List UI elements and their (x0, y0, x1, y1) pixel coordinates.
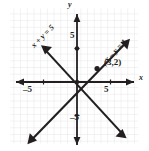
coordinate-plane-figure: y x –5 5 5 –5 (3,2) x + y = 5 x – y = 1 (0, 0, 149, 151)
y-tick-label-positive-5: 5 (70, 31, 75, 40)
x-axis-label: x (139, 74, 143, 82)
y-intercept-dot (75, 46, 79, 50)
x-tick-label-negative-5: –5 (23, 85, 32, 94)
x-tick-label-positive-5: 5 (104, 85, 109, 94)
graph-canvas (0, 0, 149, 151)
y-tick-label-negative-5: –5 (70, 113, 79, 122)
intersection-point-marker (95, 66, 100, 71)
grid-background (10, 9, 138, 144)
y-axis-label: y (68, 1, 72, 9)
origin-region-dot (75, 80, 79, 84)
